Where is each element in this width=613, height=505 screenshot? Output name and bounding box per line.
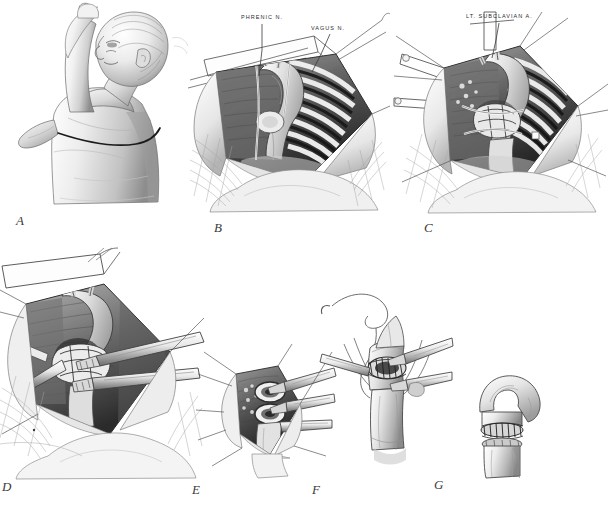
panel-f-illustration — [318, 288, 453, 480]
annotation-vagus-nerve: VAGUS N. — [311, 25, 345, 31]
panel-label-d: D — [2, 479, 12, 495]
annotation-left-subclavian-artery: LT. SUBCLAVIAN A. — [466, 13, 533, 19]
panel-label-a: A — [16, 213, 24, 229]
panel-label-b: B — [214, 220, 222, 236]
panel-label-e: E — [192, 482, 200, 498]
panel-a-illustration — [8, 2, 193, 210]
annotation-phrenic-nerve: PHRENIC N. — [241, 14, 283, 20]
panel-c-illustration — [392, 10, 610, 215]
panel-label-g: G — [434, 477, 444, 493]
panel-b-illustration — [186, 10, 391, 215]
panel-e-illustration — [196, 338, 336, 480]
panel-label-c: C — [424, 220, 433, 236]
panel-g-illustration — [462, 368, 550, 480]
figure-plate: PHRENIC N. VAGUS N. LT. SUBCLAVIAN A. A … — [0, 0, 613, 505]
panel-d-illustration — [0, 248, 205, 480]
panel-label-f: F — [312, 482, 320, 498]
